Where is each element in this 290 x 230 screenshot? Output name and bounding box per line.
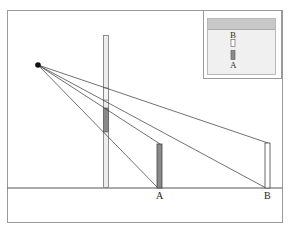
post-a-label: A xyxy=(156,190,164,201)
inset-post-a xyxy=(231,51,235,60)
inset-label-b: B xyxy=(230,30,236,40)
perspective-diagram: A B B A xyxy=(0,0,290,230)
inset-band xyxy=(208,19,275,29)
post-a xyxy=(157,144,162,188)
inset-view: B A xyxy=(204,11,282,79)
projection-a-segment xyxy=(104,108,109,132)
inset-post-b xyxy=(231,40,235,47)
inset-label-a: A xyxy=(230,60,237,70)
post-b xyxy=(265,143,270,188)
post-b-label: B xyxy=(264,190,271,201)
projection-b-segment xyxy=(104,88,109,100)
eye-point xyxy=(35,62,41,68)
